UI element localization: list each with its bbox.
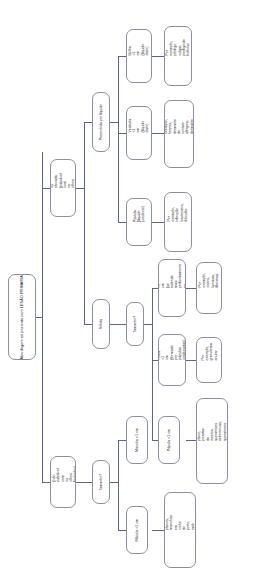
node-nodulo[interactable]: Nódulo >1 cm (se estende mais profundame… <box>158 259 186 317</box>
node-root-label: Abordagem ao paciente com LESÃO PRIMÁRIA <box>20 275 25 360</box>
connector-solidq-spine <box>152 288 153 440</box>
connector-papula-to-examples <box>186 440 196 441</box>
connector-fluid-out <box>110 122 118 123</box>
connector-raised-out <box>76 188 84 189</box>
connector-raised-to-fluid <box>84 122 92 123</box>
node-raised[interactable]: Proeminente ou elevada (palpável com os … <box>50 159 76 217</box>
flowchart-canvas: Abordagem ao paciente com LESÃO PRIMÁRIA… <box>0 0 255 585</box>
connector-flatq-to-mancha <box>118 440 126 441</box>
connector-flat-out <box>76 482 92 483</box>
connector-fluid-to-pustula <box>118 222 126 223</box>
connector-pustula-to-examples <box>152 222 164 223</box>
connector-raised-to-solid <box>84 324 92 325</box>
connector-flatq-spine <box>118 440 119 530</box>
connector-nodulo-to-examples <box>186 288 196 289</box>
node-macula-label: Mácula <1 cm <box>135 519 139 542</box>
node-pustula-examples[interactable]: Por exemplo, infecção bacteriana, folicu… <box>164 192 192 252</box>
connector-placa-to-examples <box>186 360 196 361</box>
node-fluid-filled[interactable]: Preenchida por líquido <box>92 92 110 152</box>
node-placa[interactable]: Placa >1 cm (formado por pápulas coalesc… <box>158 334 186 386</box>
node-macula-examples[interactable]: Por exemplo, efélides (sardas), nevos pl… <box>164 492 196 568</box>
connector-solid-out <box>110 324 126 325</box>
connector-fluid-to-bolha <box>118 56 126 57</box>
node-vesicula[interactable]: Vesícula <1 cm (líquido claro) <box>126 106 152 160</box>
node-papula-examples[interactable]: Por exemplo, nevos, verrugas, líquen pla… <box>196 398 228 484</box>
connector-fluid-to-vesicula <box>118 133 126 134</box>
node-root[interactable]: Abordagem ao paciente com LESÃO PRIMÁRIA <box>8 274 36 360</box>
node-solid-size-question-label: Tamanho? <box>133 316 137 333</box>
node-bolha-examples[interactable]: Por exemplo, pênfigo vulgar, penfigoide … <box>164 26 192 86</box>
node-macula[interactable]: Mácula <1 cm <box>126 506 148 554</box>
node-nodulo-examples[interactable]: Por exemplo, cistos, lipomas, fibromas <box>196 262 222 314</box>
connector-flatq-out <box>110 482 118 483</box>
connector-root-to-raised <box>42 188 50 189</box>
node-papula[interactable]: Pápula <1 cm <box>158 416 180 464</box>
connector-bolha-to-examples <box>152 56 164 57</box>
node-fluid-filled-label: Preenchida por líquido <box>99 104 103 140</box>
connector-solidq-out <box>144 324 152 325</box>
connector-root-spine <box>42 152 43 482</box>
node-mancha[interactable]: Mancha >1 cm <box>126 416 148 464</box>
node-solid[interactable]: Sólida <box>92 299 110 349</box>
connector-flatq-to-macula <box>118 530 126 531</box>
node-papula-label: Pápula <1 cm <box>167 429 171 451</box>
node-flat-size-question-label: Tamanho? <box>99 474 103 491</box>
node-flat[interactable]: Plana (não palpável com os olhos fechado… <box>50 456 76 508</box>
node-mancha-label: Mancha >1 cm <box>135 428 139 452</box>
node-placa-examples[interactable]: Por exemplo, granuloma anular <box>196 337 222 383</box>
connector-root-out <box>36 317 42 318</box>
node-bolha[interactable]: Bolha >1 cm (líquido claro) <box>126 29 152 83</box>
node-pustula[interactable]: Pústula (líquido purulento) <box>126 198 152 246</box>
node-flat-size-question[interactable]: Tamanho? <box>92 460 110 504</box>
node-solid-size-question[interactable]: Tamanho? <box>126 302 144 346</box>
node-vesicula-examples[interactable]: Por exemplo, herpes, dermatite de contat… <box>164 100 194 168</box>
node-solid-label: Sólida <box>99 316 103 332</box>
connector-fluid-spine <box>118 56 119 222</box>
connector-raised-spine <box>84 122 85 325</box>
connector-macula-to-examples <box>152 530 164 531</box>
connector-root-to-flat <box>42 482 50 483</box>
connector-vesicula-to-examples <box>152 133 164 134</box>
